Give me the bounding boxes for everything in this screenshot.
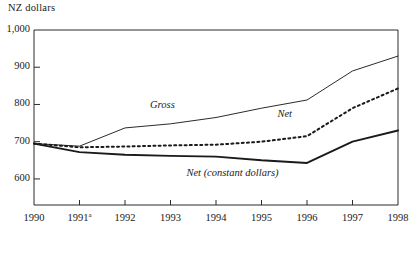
y-axis-tick-label: 1,000	[0, 23, 30, 34]
series-lines	[34, 56, 398, 163]
x-axis-tick-label: 1996	[284, 212, 330, 223]
series-label-net: Net	[277, 108, 292, 119]
y-axis-tick-label: 600	[0, 172, 30, 183]
x-axis-tick-footnote-marker: a	[88, 211, 91, 219]
x-axis-tick-label: 1997	[330, 212, 376, 223]
x-axis-tick-label: 1994	[193, 212, 239, 223]
series-line-gross	[34, 56, 398, 146]
x-axis-tick-label: 1991a	[57, 212, 103, 223]
x-axis-tick-label: 1993	[148, 212, 194, 223]
y-axis-tick-label: 800	[0, 97, 30, 108]
x-axis-tick-label: 1990	[11, 212, 57, 223]
y-axis-ticks	[34, 67, 40, 179]
x-axis-ticks	[80, 200, 353, 205]
chart-container: NZ dollars 1,000900800700600 19901991a19…	[0, 0, 416, 254]
x-axis-tick-label: 1992	[102, 212, 148, 223]
series-label-gross: Gross	[150, 99, 175, 110]
y-axis-tick-label: 900	[0, 60, 30, 71]
series-label-net-constant-dollars: Net (constant dollars)	[186, 167, 278, 178]
y-axis-tick-label: 700	[0, 135, 30, 146]
x-axis-tick-label: 1998	[375, 212, 416, 223]
x-axis-tick-label: 1995	[239, 212, 285, 223]
